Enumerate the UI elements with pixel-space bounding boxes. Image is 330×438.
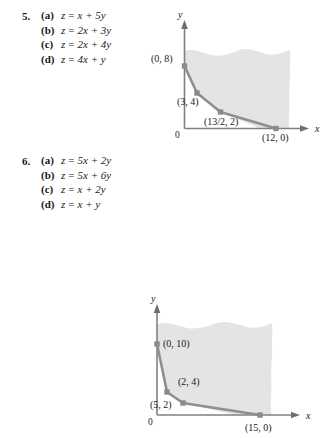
- equation-tag: (b): [41, 23, 61, 38]
- equation-tag: (b): [41, 168, 61, 183]
- equation-rhs: 2x + 3y: [78, 24, 112, 36]
- equation-list-6: (a)z=5x + 2y (b)z=5x + 6y (c)z=x + 2y (d…: [41, 153, 111, 211]
- origin-label: 0: [175, 130, 180, 140]
- vertex-label: (5, 2): [150, 399, 172, 411]
- vertex-label: (3, 4): [177, 96, 199, 108]
- vertex-marker: [180, 400, 185, 405]
- vertex-label: (13/2, 2): [204, 116, 238, 128]
- vertex-label: (15, 0): [245, 422, 272, 434]
- vertex-label: (0, 10): [163, 338, 190, 350]
- equation-item: (c)z=x + 2y: [41, 182, 111, 197]
- equation-item: (b)z=5x + 6y: [41, 168, 111, 183]
- x-axis-arrowhead: [291, 412, 300, 419]
- equation-list-5: (a)z=x + 5y (b)z=2x + 3y (c)z=2x + 4y (d…: [41, 8, 111, 66]
- vertex-marker: [182, 63, 187, 68]
- vertex-marker: [194, 90, 199, 95]
- shaded-feasible-region: [157, 322, 273, 415]
- x-axis-label: x: [314, 123, 320, 134]
- problem-number-5: 5.: [22, 10, 30, 22]
- equation-relation: =: [65, 24, 77, 36]
- equation-relation: =: [65, 38, 77, 50]
- equation-rhs: 2x + 4y: [78, 38, 112, 50]
- vertex-marker: [273, 126, 278, 131]
- equation-item: (b)z=2x + 3y: [41, 23, 111, 38]
- equation-relation: =: [65, 183, 77, 195]
- equation-rhs: 5x + 2y: [78, 154, 112, 166]
- vertex-label: (12, 0): [262, 132, 289, 144]
- vertex-marker: [218, 109, 223, 114]
- origin-label: 0: [148, 417, 153, 427]
- equation-item: (c)z=2x + 4y: [41, 37, 111, 52]
- vertex-marker: [164, 389, 169, 394]
- equation-tag: (a): [41, 8, 61, 23]
- equation-item: (d)z=4x + y: [41, 52, 111, 67]
- equation-rhs: 4x + y: [78, 53, 106, 65]
- equation-rhs: x + y: [78, 198, 101, 210]
- equation-tag: (d): [41, 197, 61, 212]
- equation-relation: =: [65, 9, 77, 21]
- equation-tag: (d): [41, 52, 61, 67]
- equation-rhs: x + 5y: [78, 9, 106, 21]
- equation-item: (a)z=x + 5y: [41, 8, 111, 23]
- graph-6-svg: y x 0 (0, 10) (2, 4) (5, 2) (15, 0): [123, 295, 330, 438]
- graph-5-svg: y x 0 (0, 8) (3, 4) (13/2, 2) (12, 0): [150, 4, 330, 144]
- x-axis-label: x: [305, 410, 311, 421]
- equation-item: (d)z=x + y: [41, 197, 111, 212]
- y-axis-label: y: [150, 295, 156, 304]
- vertex-label: (0, 8): [151, 53, 173, 65]
- vertex-label: (2, 4): [178, 376, 200, 388]
- equation-tag: (c): [41, 37, 61, 52]
- y-axis-arrowhead: [181, 20, 188, 29]
- vertex-marker: [154, 341, 159, 346]
- equation-tag: (c): [41, 182, 61, 197]
- y-axis-arrowhead: [154, 304, 161, 313]
- x-axis-arrowhead: [300, 125, 309, 132]
- equation-rhs: 5x + 6y: [78, 169, 112, 181]
- equation-relation: =: [65, 53, 77, 65]
- equation-relation: =: [65, 169, 77, 181]
- vertex-marker: [257, 412, 262, 417]
- feasible-region-graph-5: y x 0 (0, 8) (3, 4) (13/2, 2) (12, 0): [150, 4, 330, 144]
- equation-relation: =: [65, 198, 77, 210]
- problem-5: 5. (a)z=x + 5y (b)z=2x + 3y (c)z=2x + 4y…: [0, 0, 330, 145]
- problem-number-6: 6.: [22, 155, 30, 167]
- equation-tag: (a): [41, 153, 61, 168]
- feasible-region-graph-6: y x 0 (0, 10) (2, 4) (5, 2) (15, 0): [123, 295, 330, 438]
- y-axis-label: y: [177, 9, 183, 20]
- equation-relation: =: [65, 154, 77, 166]
- equation-rhs: x + 2y: [78, 183, 106, 195]
- equation-item: (a)z=5x + 2y: [41, 153, 111, 168]
- problem-6: 6. (a)z=5x + 2y (b)z=5x + 6y (c)z=x + 2y…: [0, 145, 330, 300]
